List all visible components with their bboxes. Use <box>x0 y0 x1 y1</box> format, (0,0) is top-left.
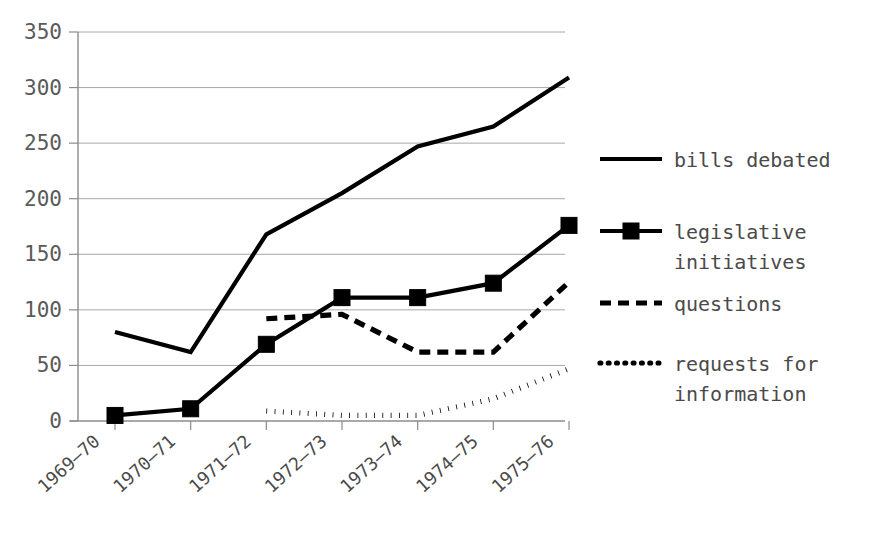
y-tick-label: 350 <box>24 20 62 44</box>
data-point-marker <box>561 217 577 233</box>
x-tick-label: 1971–72 <box>185 430 255 496</box>
y-axis-tick-labels: 050100150200250300350 <box>24 20 62 433</box>
y-tick-label: 50 <box>37 353 62 377</box>
data-point-marker <box>485 275 501 291</box>
line-chart: 050100150200250300350 1969–701970–711971… <box>0 0 881 537</box>
x-axis-tick-labels: 1969–701970–711971–721972–731973–741974–… <box>33 430 557 496</box>
x-tick-marks-group <box>115 421 569 430</box>
legend-label: questions <box>674 292 782 316</box>
data-point-marker <box>107 407 123 423</box>
series-legislative-initiatives <box>107 217 577 423</box>
legend-item-bills-debated[interactable]: bills debated <box>600 148 831 172</box>
legend-label: requests for <box>674 352 819 376</box>
chart-legend: bills debatedlegislativeinitiativesquest… <box>600 148 831 406</box>
x-tick-label: 1974–75 <box>412 430 482 496</box>
y-tick-label: 100 <box>24 298 62 322</box>
series-line <box>266 369 569 416</box>
legend-label-continued: information <box>674 382 806 406</box>
y-tick-marks-group <box>69 32 78 421</box>
data-point-marker <box>410 290 426 306</box>
y-tick-label: 250 <box>24 131 62 155</box>
legend-item-requests-for-information[interactable]: requests forinformation <box>600 352 819 406</box>
series-requests-for-information <box>266 369 569 416</box>
data-point-marker <box>183 401 199 417</box>
x-tick-label: 1975–76 <box>487 430 557 496</box>
legend-label: legislative <box>674 220 806 244</box>
legend-label-continued: initiatives <box>674 250 806 274</box>
x-tick-label: 1969–70 <box>33 430 103 496</box>
legend-item-questions[interactable]: questions <box>600 292 782 316</box>
legend-label: bills debated <box>674 148 831 172</box>
legend-item-legislative-initiatives[interactable]: legislativeinitiatives <box>600 220 806 274</box>
chart-container: 050100150200250300350 1969–701970–711971… <box>0 0 881 537</box>
x-tick-label: 1970–71 <box>109 430 179 496</box>
y-tick-label: 0 <box>49 409 62 433</box>
y-tick-label: 200 <box>24 187 62 211</box>
y-tick-label: 150 <box>24 242 62 266</box>
series-line <box>115 78 569 353</box>
x-tick-label: 1972–73 <box>260 430 330 496</box>
x-tick-label: 1973–74 <box>336 430 406 496</box>
data-point-marker <box>258 336 274 352</box>
data-point-marker <box>334 290 350 306</box>
legend-marker-sample <box>623 223 639 239</box>
y-tick-label: 300 <box>24 76 62 100</box>
series-bills-debated <box>115 78 569 353</box>
data-series-group <box>107 78 577 424</box>
